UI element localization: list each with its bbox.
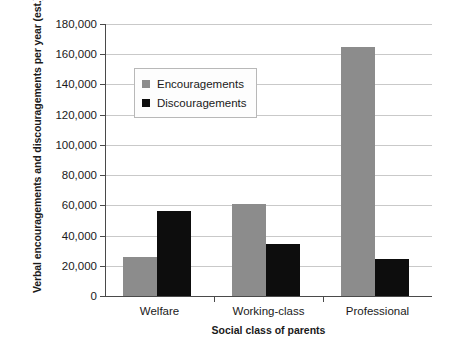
y-tick-label: 160,000 (55, 48, 97, 60)
bar-chart: Verbal encouragements and discouragement… (0, 0, 450, 348)
y-tick-mark (100, 266, 105, 267)
y-tick-mark (100, 84, 105, 85)
y-tick-label: 180,000 (55, 18, 97, 30)
bar-encouragements-working-class (232, 204, 266, 296)
y-axis-line (105, 24, 106, 296)
y-tick-mark (100, 145, 105, 146)
y-tick-mark (100, 24, 105, 25)
x-axis-title: Social class of parents (105, 324, 432, 336)
chart-legend: EncouragementsDiscouragements (134, 68, 257, 118)
y-tick-label: 140,000 (55, 78, 97, 90)
plot-area: 020,00040,00060,00080,000100,000120,0001… (105, 24, 432, 296)
y-tick-label: 0 (91, 290, 97, 302)
legend-label: Encouragements (157, 78, 244, 90)
x-tick-label-working-class: Working-class (233, 305, 305, 317)
y-tick-label: 100,000 (55, 139, 97, 151)
gridline (106, 145, 432, 146)
y-tick-mark (100, 205, 105, 206)
y-tick-mark (100, 296, 105, 297)
bar-discouragements-professional (375, 259, 409, 296)
y-tick-label: 40,000 (62, 230, 97, 242)
x-tick-mark (323, 296, 324, 302)
y-tick-mark (100, 175, 105, 176)
y-tick-mark (100, 115, 105, 116)
legend-item-encouragements: Encouragements (142, 74, 246, 93)
y-tick-mark (100, 54, 105, 55)
x-tick-label-welfare: Welfare (140, 305, 179, 317)
legend-swatch-icon (142, 99, 150, 107)
gridline (106, 236, 432, 237)
legend-label: Discouragements (157, 97, 246, 109)
legend-item-discouragements: Discouragements (142, 93, 246, 112)
bar-encouragements-professional (341, 47, 375, 296)
y-tick-mark (100, 236, 105, 237)
gridline (106, 24, 432, 25)
gridline (106, 175, 432, 176)
y-axis-title: Verbal encouragements and discouragement… (31, 27, 44, 293)
y-axis-title-container: Verbal encouragements and discouragement… (14, 24, 60, 296)
bar-discouragements-working-class (266, 244, 300, 296)
legend-swatch-icon (142, 80, 150, 88)
bar-encouragements-welfare (123, 257, 157, 296)
gridline (106, 54, 432, 55)
y-tick-label: 60,000 (62, 199, 97, 211)
gridline (106, 296, 432, 297)
x-tick-label-professional: Professional (346, 305, 409, 317)
y-tick-label: 120,000 (55, 109, 97, 121)
x-tick-mark (214, 296, 215, 302)
y-tick-label: 20,000 (62, 260, 97, 272)
bar-discouragements-welfare (157, 211, 191, 296)
y-tick-label: 80,000 (62, 169, 97, 181)
gridline (106, 205, 432, 206)
